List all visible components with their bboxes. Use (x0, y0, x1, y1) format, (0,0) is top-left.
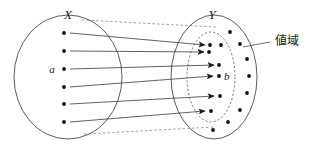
range-callout-label: 値域 (275, 33, 299, 48)
mapping-arrow (70, 76, 213, 87)
codomain-set-label: Y (208, 7, 217, 22)
element-dot (245, 57, 249, 61)
element-dot (228, 30, 232, 34)
element-dot (62, 49, 66, 53)
domain-set-label: X (63, 7, 73, 22)
element-dot (218, 94, 222, 98)
element-b-label: b (224, 70, 230, 82)
element-dot (219, 43, 223, 47)
range-callout-leader-line (243, 42, 270, 47)
mapping-arrow (70, 96, 214, 104)
element-dot (208, 43, 212, 47)
domain-set-ellipse (14, 15, 122, 139)
element-dot (217, 74, 221, 78)
element-dot (62, 85, 66, 89)
element-dot (226, 120, 230, 124)
range-elements-group (207, 43, 223, 113)
mapping-arrow (70, 33, 205, 45)
element-a-label: a (49, 63, 55, 75)
mapping-arrows-group (70, 33, 214, 122)
element-dot (62, 67, 66, 71)
element-dot (62, 102, 66, 106)
element-dot (62, 120, 66, 124)
element-dot (62, 31, 66, 35)
element-dot (247, 74, 251, 78)
figure-canvas: X Y a b 値域 (0, 0, 316, 151)
codomain-set-ellipse (171, 15, 257, 139)
element-dot (207, 50, 211, 54)
mapping-arrow (70, 51, 204, 52)
element-dot (245, 91, 249, 95)
set-mapping-diagram: X Y a b 値域 (0, 0, 316, 151)
element-dot (211, 128, 215, 132)
codomain-outer-elements-group (211, 30, 251, 132)
mapping-arrow (70, 65, 214, 69)
domain-elements-group (62, 31, 66, 124)
element-dot (209, 109, 213, 113)
element-dot (238, 42, 242, 46)
element-dot (238, 108, 242, 112)
mapping-arrow (70, 111, 205, 122)
element-dot (217, 63, 221, 67)
